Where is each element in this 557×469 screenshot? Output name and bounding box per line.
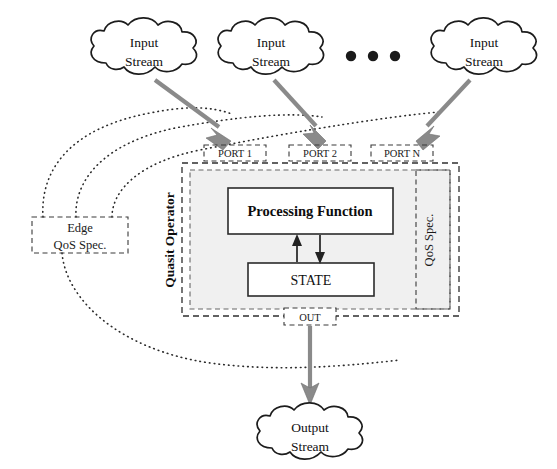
diagram-canvas: Input Stream Input Stream Input Stream: [0, 0, 557, 469]
input-stream-2: Input Stream: [218, 18, 323, 74]
stream-arrow-2: [274, 80, 326, 149]
input-stream-1-line1: Input: [130, 35, 159, 50]
edge-qos-spec-line1: Edge: [67, 221, 93, 235]
state-label: STATE: [291, 273, 332, 288]
ellipsis-indicator: [346, 51, 400, 61]
port-2[interactable]: PORT 2: [289, 145, 351, 161]
input-stream-3-line1: Input: [470, 35, 499, 50]
ellipsis-dot-2: [368, 51, 378, 61]
input-stream-1: Input Stream: [91, 18, 196, 74]
stream-arrow-3-head: [416, 126, 440, 150]
port-n-label: PORT N: [384, 148, 421, 159]
input-stream-2-line2: Stream: [252, 54, 291, 69]
input-stream-3: Input Stream: [431, 18, 536, 74]
architecture-diagram: Input Stream Input Stream Input Stream: [0, 0, 557, 469]
edge-qos-spec[interactable]: Edge QoS Spec.: [32, 217, 128, 253]
output-arrow: [301, 326, 319, 405]
stream-arrow-2-shaft: [274, 80, 316, 126]
input-stream-1-line2: Stream: [125, 54, 164, 69]
state[interactable]: STATE: [248, 263, 374, 296]
ellipsis-dot-3: [390, 51, 400, 61]
edge-qos-spec-line2: QoS Spec.: [54, 238, 107, 252]
processing-function[interactable]: Processing Function: [228, 188, 393, 234]
output-stream-line1: Output: [291, 420, 329, 435]
port-1-label: PORT 1: [218, 148, 252, 159]
output-stream: Output Stream: [257, 403, 362, 459]
processing-function-label: Processing Function: [248, 203, 373, 219]
stream-arrow-3-shaft: [427, 80, 470, 126]
ellipsis-dot-1: [346, 51, 356, 61]
out-port[interactable]: OUT: [284, 308, 336, 325]
port-2-label: PORT 2: [303, 148, 337, 159]
quasit-operator-label: Quasit Operator: [162, 192, 177, 288]
qos-spec-label: QoS Spec.: [422, 214, 436, 267]
out-port-label: OUT: [299, 312, 321, 323]
input-stream-2-line1: Input: [257, 35, 286, 50]
output-stream-line2: Stream: [291, 439, 330, 454]
stream-arrow-3: [416, 80, 470, 150]
input-stream-3-line2: Stream: [465, 54, 504, 69]
stream-arrow-1-head: [206, 128, 231, 150]
stream-arrow-1: [155, 80, 231, 150]
stream-arrow-1-shaft: [155, 80, 219, 127]
port-1[interactable]: PORT 1: [204, 145, 266, 161]
